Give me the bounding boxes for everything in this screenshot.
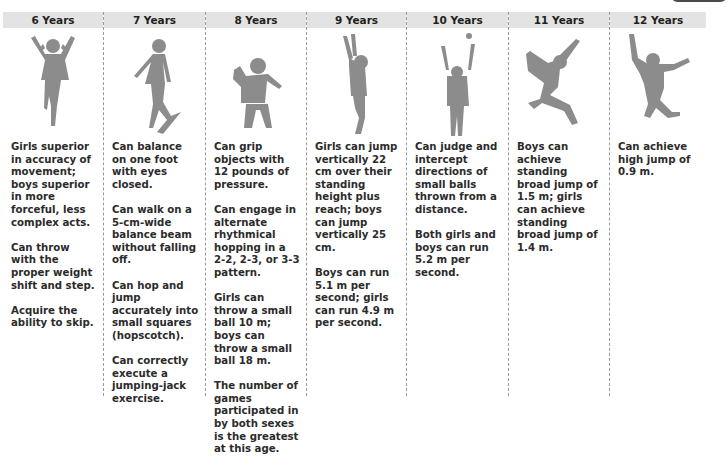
milestone-item: Can judge and intercept directions of sm…	[415, 141, 502, 217]
column-8-years: 8 Years Can grip objects with 12 pounds …	[206, 12, 307, 396]
boy-high-jump-silhouette-icon	[610, 28, 706, 138]
girl-catching-ball-silhouette-icon	[407, 28, 508, 138]
column-12-years: 12 Years Can achieve high jump of 0.9 m.	[610, 12, 706, 396]
milestone-item: Girls superior in accuracy of movement; …	[11, 141, 97, 229]
corner-tab	[670, 0, 728, 2]
column-10-years: 10 Years Can judge and intercept directi…	[407, 12, 509, 396]
milestone-item: Can balance on one foot with eyes closed…	[112, 141, 199, 191]
column-7-years: 7 Years Can balance on one foot with eye…	[104, 12, 206, 396]
column-text: Can judge and intercept directions of sm…	[407, 138, 508, 280]
girl-walking-balance-beam-silhouette-icon	[104, 28, 205, 138]
column-header: 8 Years	[206, 12, 306, 28]
milestone-item: Can engage in alternate rhythmical hoppi…	[214, 204, 300, 280]
column-text: Boys can achieve standing broad jump of …	[509, 138, 609, 254]
milestone-item: Can correctly execute a jumping-jack exe…	[112, 355, 199, 405]
column-header: 7 Years	[104, 12, 205, 28]
motor-development-table: 6 Years Girls superior in accuracy of mo…	[3, 12, 713, 398]
column-text: Can achieve high jump of 0.9 m.	[610, 138, 706, 179]
milestone-item: Acquire the ability to skip.	[11, 305, 97, 330]
girl-jumping-rope-silhouette-icon	[3, 28, 103, 138]
milestone-item: Both girls and boys can run 5.2 m per se…	[415, 229, 502, 279]
milestone-item: Girls can throw a small ball 10 m; boys …	[214, 292, 300, 368]
column-6-years: 6 Years Girls superior in accuracy of mo…	[3, 12, 104, 396]
milestone-item: The number of games participated in by b…	[214, 380, 300, 456]
milestone-item: Boys can run 5.1 m per second; girls can…	[315, 267, 400, 330]
column-header: 6 Years	[3, 12, 103, 28]
boy-jumping-vertically-silhouette-icon	[307, 28, 406, 138]
column-text: Can grip objects with 12 pounds of press…	[206, 138, 306, 456]
column-11-years: 11 Years Boys can achieve standing broad…	[509, 12, 610, 396]
column-text: Girls can jump vertically 22 cm over the…	[307, 138, 406, 330]
milestone-item: Can hop and jump accurately into small s…	[112, 280, 199, 343]
boy-throwing-silhouette-icon	[206, 28, 306, 138]
column-header: 12 Years	[610, 12, 706, 28]
milestone-item: Can walk on a 5-cm-wide balance beam wit…	[112, 204, 199, 267]
column-9-years: 9 Years Girls can jump vertically 22 cm …	[307, 12, 407, 396]
column-text: Girls superior in accuracy of movement; …	[3, 138, 103, 330]
column-header: 11 Years	[509, 12, 609, 28]
column-header: 9 Years	[307, 12, 406, 28]
milestone-item: Can grip objects with 12 pounds of press…	[214, 141, 300, 191]
column-header: 10 Years	[407, 12, 508, 28]
column-text: Can balance on one foot with eyes closed…	[104, 138, 205, 405]
milestone-item: Can achieve high jump of 0.9 m.	[618, 141, 700, 179]
milestone-item: Girls can jump vertically 22 cm over the…	[315, 141, 400, 254]
girl-broad-jump-silhouette-icon	[509, 28, 609, 138]
milestone-item: Can throw with the proper weight shift a…	[11, 242, 97, 292]
milestone-item: Boys can achieve standing broad jump of …	[517, 141, 603, 254]
